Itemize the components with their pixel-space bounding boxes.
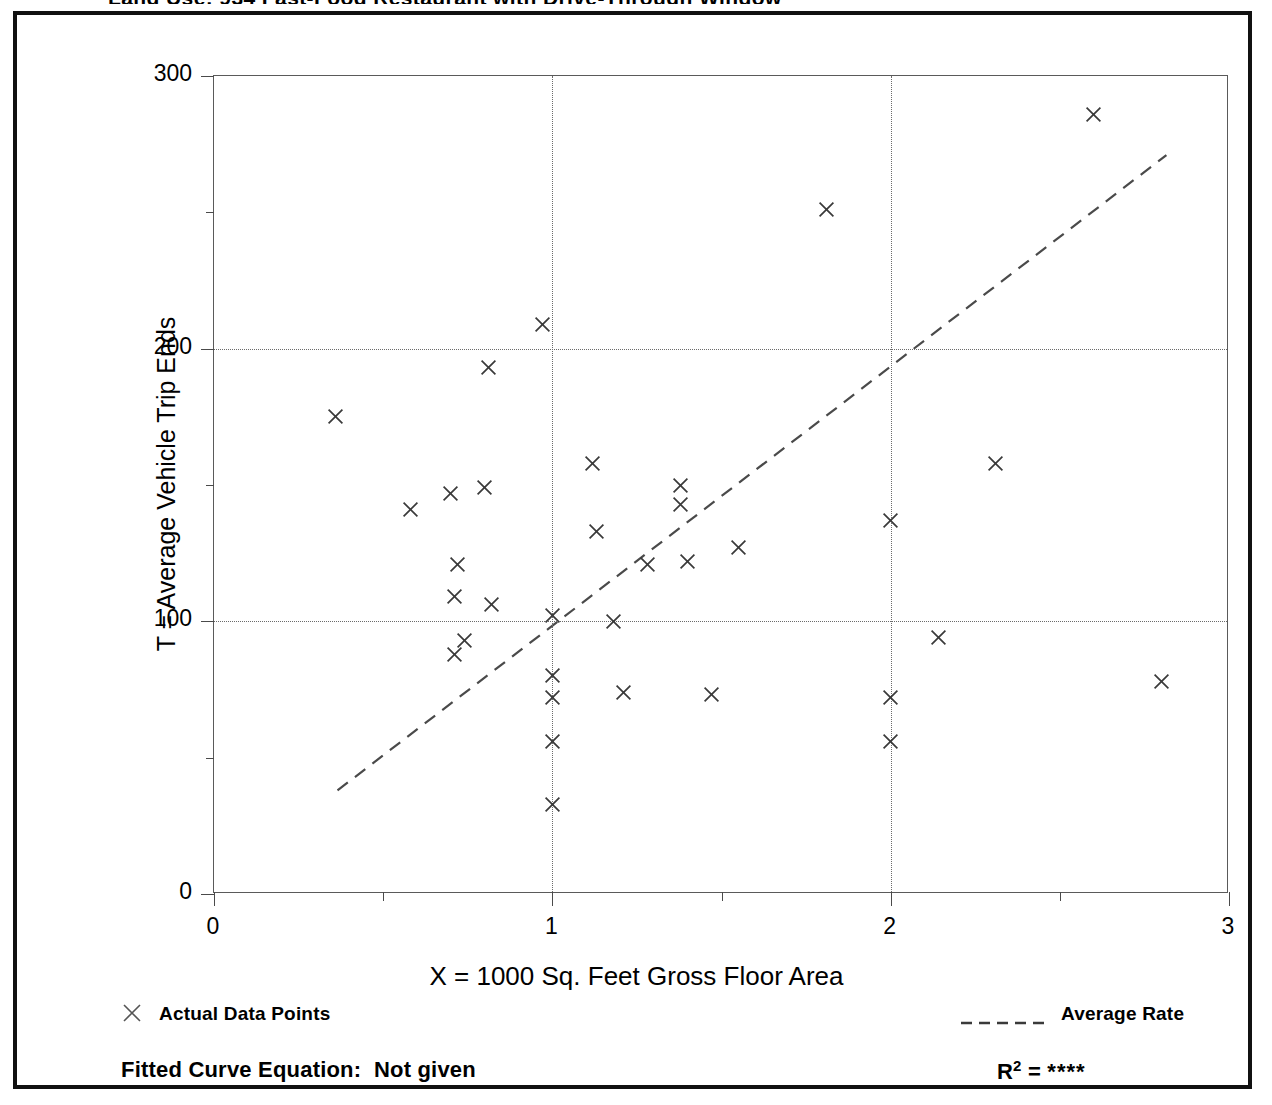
fitted-curve-equation-label: Fitted Curve Equation: <box>121 1057 361 1082</box>
fitted-curve-equation: Fitted Curve Equation: Not given <box>121 1057 476 1083</box>
equation-spacer <box>361 1057 374 1082</box>
y-axis-tick-minor <box>206 758 214 759</box>
clipped-page-header-text: Land Use: 934 Fast-Food Restaurant with … <box>0 0 1272 4</box>
y-axis-tick-major <box>201 621 214 622</box>
y-axis-tick-label: 200 <box>132 333 192 360</box>
x-axis-tick-minor <box>722 892 723 901</box>
y-axis-tick-major <box>201 894 214 895</box>
x-axis-tick-minor <box>383 892 384 901</box>
y-axis-tick-label: 0 <box>132 878 192 905</box>
y-axis-tick-label: 300 <box>132 60 192 87</box>
y-axis-tick-major <box>201 349 214 350</box>
fitted-curve-equation-value: Not given <box>374 1057 476 1082</box>
r-squared-equals-sign: = <box>1028 1059 1041 1084</box>
x-axis-tick-label: 2 <box>860 913 920 940</box>
legend-label-average-rate: Average Rate <box>1061 1003 1184 1025</box>
legend-label-actual-data-points: Actual Data Points <box>159 1003 330 1025</box>
x-axis-tick-major <box>1229 892 1230 906</box>
plot-area: T = Average Vehicle Trip Ends <box>213 75 1228 893</box>
r-squared-value: R2 = **** <box>997 1057 1086 1085</box>
y-axis-tick-major <box>201 76 214 77</box>
r-squared-stars: **** <box>1047 1059 1085 1084</box>
gridline-vertical <box>552 76 553 892</box>
x-axis-tick-major <box>214 892 215 906</box>
y-axis-title: T = Average Vehicle Trip Ends <box>152 204 181 764</box>
x-axis-tick-label: 3 <box>1198 913 1258 940</box>
x-axis-title: X = 1000 Sq. Feet Gross Floor Area <box>17 961 1256 992</box>
chart-frame: T = Average Vehicle Trip Ends 0100200300… <box>13 11 1252 1089</box>
dashed-line-icon <box>961 1011 1047 1015</box>
gridline-horizontal <box>214 349 1227 350</box>
x-axis-tick-label: 0 <box>183 913 243 940</box>
clipped-page-header: Land Use: 934 Fast-Food Restaurant with … <box>0 0 1272 4</box>
gridline-horizontal <box>214 621 1227 622</box>
y-axis-tick-label: 100 <box>132 605 192 632</box>
gridline-vertical <box>891 76 892 892</box>
x-axis-tick-major <box>891 892 892 906</box>
average-rate-trendline <box>214 76 1229 894</box>
r-squared-label: R <box>997 1059 1013 1084</box>
x-marker-icon <box>121 1002 143 1024</box>
x-axis-tick-label: 1 <box>521 913 581 940</box>
x-axis-tick-major <box>552 892 553 906</box>
r-squared-exponent: 2 <box>1013 1057 1022 1074</box>
y-axis-tick-minor <box>206 212 214 213</box>
x-axis-tick-minor <box>1060 892 1061 901</box>
y-axis-tick-minor <box>206 485 214 486</box>
average-rate-line <box>337 155 1166 790</box>
